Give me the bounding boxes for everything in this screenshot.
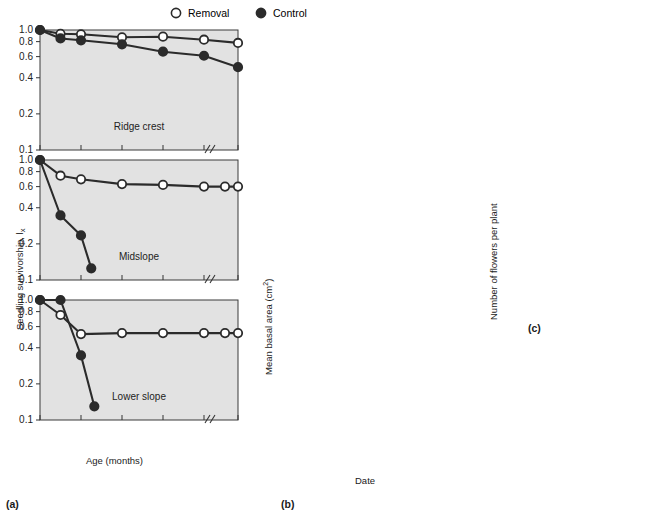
series-a-lower-slope-removal-point	[221, 329, 229, 337]
series-a-ridge-crest-control-point	[118, 40, 126, 48]
legend-filled-circle-icon	[256, 8, 265, 17]
series-a-ridge-crest-control-point	[36, 26, 44, 34]
legend-open-circle-icon	[171, 8, 180, 17]
series-a-lower-slope-removal-point	[77, 330, 85, 338]
y-tick-label: 0.4	[19, 72, 33, 83]
y-tick-label: 0.2	[19, 378, 33, 389]
caption-c: (c)	[528, 322, 541, 334]
axis-label-b-y-text: Mean basal area (cm	[263, 286, 274, 375]
legend-label-control: Control	[273, 7, 307, 19]
series-a-lower-slope-removal-point	[159, 329, 167, 337]
series-a-ridge-crest-removal-point	[234, 39, 242, 47]
y-tick-label: 0.6	[19, 51, 33, 62]
caption-b: (b)	[281, 498, 294, 510]
y-tick-label: 0.6	[19, 181, 33, 192]
series-a-midslope-control-point	[77, 231, 85, 239]
series-a-lower-slope-removal-point	[118, 329, 126, 337]
series-a-ridge-crest-control-point	[77, 36, 85, 44]
series-a-lower-slope-control-point	[36, 296, 44, 304]
y-tick-label: 0.8	[19, 166, 33, 177]
y-tick-label: 0.4	[19, 342, 33, 353]
series-a-ridge-crest-control-point	[56, 34, 64, 42]
series-a-lower-slope-control-point	[56, 296, 64, 304]
series-a-midslope-removal-point	[200, 182, 208, 190]
series-a-midslope-removal-point	[56, 171, 64, 179]
axis-label-a-x: Age (months)	[86, 455, 143, 466]
panel-c	[475, 140, 653, 340]
axis-label-a-y-text: Seedling survivorship, l	[14, 232, 25, 330]
series-a-midslope-removal-point	[159, 181, 167, 189]
caption-a: (a)	[6, 498, 19, 510]
y-tick-label: 1.0	[19, 154, 33, 165]
legend-label-removal: Removal	[188, 7, 229, 19]
y-tick-label: 0.1	[19, 414, 33, 425]
series-a-ridge-crest-removal-point	[200, 36, 208, 44]
series-a-midslope-removal-point	[77, 175, 85, 183]
y-tick-label: 0.8	[19, 36, 33, 47]
panel-title-a-ridge-crest: Ridge crest	[114, 121, 165, 132]
panel-a: 1.00.80.60.40.20.1Ridge crest1.00.80.60.…	[0, 22, 250, 452]
series-a-midslope-removal-point	[221, 182, 229, 190]
series-a-lower-slope-control-point	[77, 351, 85, 359]
series-a-midslope-control-point	[36, 156, 44, 164]
series-a-ridge-crest-control-point	[234, 63, 242, 71]
plot-area-a-lower-slope	[40, 300, 238, 420]
series-a-midslope-control-point	[56, 211, 64, 219]
y-tick-label: 0.4	[19, 202, 33, 213]
axis-label-b-y-end: )	[263, 279, 274, 282]
axis-label-b-y: Mean basal area (cm2)	[262, 279, 274, 375]
series-a-midslope-removal-point	[234, 182, 242, 190]
axis-label-b-x: Date	[355, 475, 375, 486]
axis-label-c-y: Number of flowers per plant	[488, 203, 499, 320]
series-a-lower-slope-removal-point	[56, 311, 64, 319]
y-tick-label: 0.2	[19, 108, 33, 119]
axis-label-a-y-sub: x	[18, 229, 27, 233]
series-a-ridge-crest-removal-point	[159, 32, 167, 40]
series-a-ridge-crest-control-point	[159, 47, 167, 55]
axis-label-a-y: Seedling survivorship, lx	[14, 229, 27, 330]
axis-label-b-y-sup: 2	[262, 282, 269, 286]
y-tick-label: 1.0	[19, 24, 33, 35]
series-a-lower-slope-control-point	[90, 402, 98, 410]
panel-title-a-midslope: Midslope	[119, 251, 159, 262]
series-a-midslope-control-point	[87, 264, 95, 272]
panel-b	[250, 22, 475, 452]
series-a-lower-slope-removal-point	[200, 329, 208, 337]
panel-title-a-lower-slope: Lower slope	[112, 391, 166, 402]
series-a-lower-slope-removal-point	[234, 329, 242, 337]
figure-legend: Removal Control	[168, 5, 468, 21]
series-a-ridge-crest-control-point	[200, 52, 208, 60]
series-a-midslope-removal-point	[118, 180, 126, 188]
